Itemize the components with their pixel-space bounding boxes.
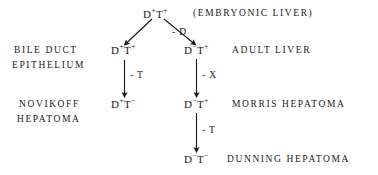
edge-label-minus-d: - D (172, 28, 187, 38)
side-label-bile-duct-line2: EPITHELIUM (12, 61, 85, 71)
arrow-layer (0, 0, 378, 175)
edge-label-minus-t-morris: - T (202, 126, 216, 136)
node-bile-duct-d: D (111, 44, 119, 56)
lineage-diagram: D+T+ (EMBRYONIC LIVER) - D BILE DUCT EPI… (0, 0, 378, 175)
node-novikoff-hepatoma: D+T− (111, 99, 136, 110)
node-novikoff-d: D (111, 98, 119, 110)
node-morris-hepatoma: D−T+ (184, 99, 209, 110)
side-label-novikoff-line1: NOVIKOFF (19, 100, 80, 110)
node-embryonic-liver-t-sign: + (163, 6, 168, 15)
node-adult-liver-d: D (184, 44, 192, 56)
node-embryonic-liver: D+T+ (143, 9, 168, 20)
right-label-adult-liver: ADULT LIVER (232, 46, 311, 56)
edge-label-minus-t-bile: - T (130, 71, 144, 81)
node-dunning-t-sign: − (204, 151, 209, 160)
node-adult-liver: D−T+ (184, 45, 209, 56)
node-morris-d: D (184, 98, 192, 110)
node-embryonic-liver-d: D (143, 8, 151, 20)
side-label-bile-duct-line1: BILE DUCT (14, 46, 78, 56)
edge-label-minus-x: - X (202, 71, 217, 81)
node-dunning-d: D (184, 153, 192, 165)
caption-embryonic-liver: (EMBRYONIC LIVER) (193, 9, 313, 19)
node-bile-duct-epithelium: D+T+ (111, 45, 136, 56)
node-novikoff-t-sign: − (131, 96, 136, 105)
node-dunning-hepatoma: D−T− (184, 154, 209, 165)
node-adult-liver-t-sign: + (204, 42, 209, 51)
right-label-morris-hepatoma: MORRIS HEPATOMA (232, 100, 346, 110)
right-label-dunning-hepatoma: DUNNING HEPATOMA (227, 155, 350, 165)
side-label-novikoff-line2: HEPATOMA (17, 115, 80, 125)
node-morris-t-sign: + (204, 96, 209, 105)
node-bile-duct-t-sign: + (131, 42, 136, 51)
arrow-embryonic-to-bile-duct (126, 19, 152, 44)
